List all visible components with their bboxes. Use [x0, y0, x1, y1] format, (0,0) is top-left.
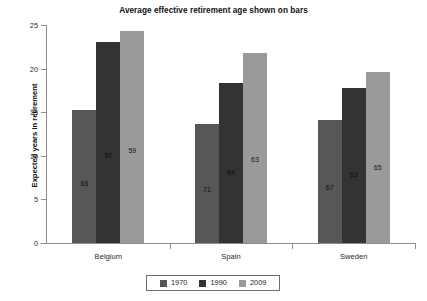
- legend-item-1970[interactable]: 1970: [160, 279, 187, 286]
- bar[interactable]: 63: [72, 110, 96, 243]
- bar[interactable]: 64: [219, 83, 243, 243]
- y-tick-mark: [41, 243, 46, 244]
- bar[interactable]: 57: [96, 42, 120, 243]
- y-tick-label: 20: [14, 65, 38, 74]
- bar-value-label: 67: [318, 184, 342, 191]
- x-tick-mark: [170, 244, 171, 249]
- legend-label: 1990: [210, 279, 226, 286]
- legend-label: 2009: [250, 279, 266, 286]
- bar[interactable]: 67: [318, 120, 342, 243]
- chart-legend[interactable]: 197019902009: [146, 275, 280, 291]
- y-tick-mark: [41, 156, 46, 157]
- legend-swatch-icon: [199, 280, 206, 287]
- x-tick-mark: [292, 244, 293, 249]
- chart-title: Average effective retirement age shown o…: [0, 6, 427, 15]
- bar-chart: Average effective retirement age shown o…: [0, 0, 427, 301]
- bar-value-label: 65: [366, 164, 390, 171]
- x-tick-mark: [415, 244, 416, 249]
- y-tick-mark: [41, 69, 46, 70]
- y-tick-label: 5: [14, 195, 38, 204]
- bar-value-label: 71: [195, 186, 219, 193]
- bar-value-label: 63: [342, 171, 366, 178]
- y-tick-mark: [41, 25, 46, 26]
- bar[interactable]: 71: [195, 124, 219, 243]
- legend-swatch-icon: [160, 280, 167, 287]
- bar[interactable]: 63: [243, 53, 267, 243]
- y-tick-mark: [41, 112, 46, 113]
- y-tick-label: 10: [14, 152, 38, 161]
- bar[interactable]: 59: [120, 31, 144, 243]
- x-category-label-belgium: Belgium: [63, 252, 153, 261]
- legend-label: 1970: [171, 279, 187, 286]
- bar[interactable]: 63: [342, 88, 366, 243]
- x-category-label-sweden: Sweden: [309, 252, 399, 261]
- bar-value-label: 59: [120, 147, 144, 154]
- legend-item-2009[interactable]: 2009: [239, 279, 266, 286]
- y-tick-mark: [41, 199, 46, 200]
- bar[interactable]: 65: [366, 72, 390, 243]
- y-tick-label: 15: [14, 108, 38, 117]
- legend-swatch-icon: [239, 280, 246, 287]
- y-tick-label: 0: [14, 239, 38, 248]
- bar-value-label: 57: [96, 152, 120, 159]
- y-tick-label: 25: [14, 21, 38, 30]
- bar-value-label: 64: [219, 169, 243, 176]
- plot-area: 635759716463676365: [47, 25, 415, 243]
- x-category-label-spain: Spain: [186, 252, 276, 261]
- legend-item-1990[interactable]: 1990: [199, 279, 226, 286]
- x-axis-line: [46, 243, 416, 244]
- bar-value-label: 63: [72, 180, 96, 187]
- bar-value-label: 63: [243, 156, 267, 163]
